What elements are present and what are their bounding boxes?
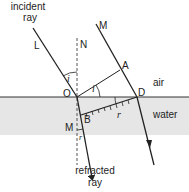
incident-ray-label-2: ray	[23, 13, 37, 23]
label-L: L	[34, 41, 40, 51]
label-water: water	[153, 110, 177, 120]
label-M-top: M	[99, 21, 107, 31]
label-air: air	[153, 78, 164, 88]
label-N: N	[80, 40, 87, 50]
incident-ray-label-1: incident	[11, 2, 45, 12]
refracted-ray-label-1: refracted	[75, 166, 114, 176]
label-B: B	[84, 115, 91, 125]
incident-ray-L	[33, 28, 77, 97]
diagram-graphics	[0, 0, 189, 192]
angle-label-i-O: i	[92, 84, 95, 94]
incident-ray-M	[96, 24, 137, 97]
refracted-ray-label-2: ray	[88, 178, 102, 188]
angle-label-r-D: r	[117, 110, 121, 120]
incident-wavefront-OA	[77, 70, 120, 97]
angle-arc-i-O	[96, 85, 100, 97]
label-O: O	[63, 89, 71, 99]
label-A: A	[122, 61, 129, 71]
label-M-bottom: M	[65, 123, 73, 133]
label-D: D	[138, 88, 145, 98]
angle-label-r-bottom: r	[79, 134, 82, 142]
refraction-diagram: incident ray L N M A O D B M air water i…	[0, 0, 189, 192]
angle-arc-i-top	[63, 72, 77, 76]
angle-label-i-top: i	[67, 74, 70, 84]
